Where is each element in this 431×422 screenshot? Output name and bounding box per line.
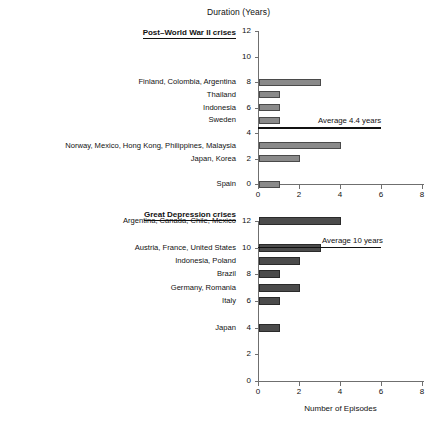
y-tick-label: 6 (237, 297, 251, 305)
x-tick-label: 4 (333, 388, 347, 396)
y-tick-mark (255, 221, 258, 222)
x-tick-mark (381, 382, 382, 386)
category-label: Germany, Romania (171, 284, 236, 292)
crisis-duration-figure: Duration (Years) 02468101202468Post–Worl… (0, 0, 431, 422)
y-tick-label: 4 (237, 324, 251, 332)
x-tick-mark (422, 382, 423, 386)
y-tick-label: 0 (237, 377, 251, 385)
category-label: Indonesia, Poland (175, 257, 236, 265)
category-label: Japan (215, 324, 236, 332)
y-tick-label: 8 (237, 270, 251, 278)
x-tick-label: 0 (251, 388, 265, 396)
y-tick-label: 12 (237, 217, 251, 225)
bottom-axis-title: Number of Episodes (250, 404, 431, 413)
x-tick-label: 8 (415, 388, 429, 396)
average-label: Average 10 years (322, 237, 383, 245)
y-tick-label: 2 (237, 350, 251, 358)
x-tick-label: 6 (374, 388, 388, 396)
bar (259, 297, 280, 305)
category-label: Austria, France, United States (135, 244, 236, 252)
bar (259, 257, 300, 265)
panel-great-depression: 02468101202468Great Depression crisesArg… (0, 0, 431, 422)
category-label: Italy (222, 297, 236, 305)
bar (259, 217, 341, 225)
bar (259, 284, 300, 292)
average-line (258, 247, 381, 249)
x-tick-mark (340, 382, 341, 386)
y-tick-mark (255, 328, 258, 329)
bar (259, 270, 280, 278)
y-tick-mark (255, 354, 258, 355)
x-tick-mark (299, 382, 300, 386)
category-label: Argentina, Canada, Chile, Mexico (123, 217, 236, 225)
y-tick-mark (255, 274, 258, 275)
y-tick-mark (255, 301, 258, 302)
bar (259, 324, 280, 332)
y-tick-label: 10 (237, 244, 251, 252)
x-tick-label: 2 (292, 388, 306, 396)
category-label: Brazil (217, 270, 236, 278)
x-tick-mark (258, 382, 259, 386)
